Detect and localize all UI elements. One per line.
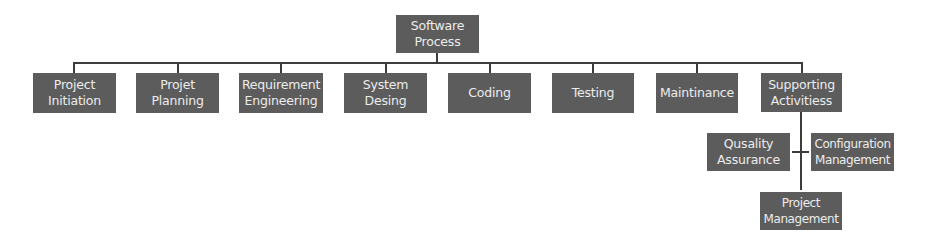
node-label: Requirement Engineering (242, 77, 320, 109)
node-label: Maintinance (660, 85, 734, 101)
node-label: Qusality Assurance (717, 136, 780, 168)
node-maintinance: Maintinance (656, 73, 738, 113)
node-label: Coding (468, 85, 510, 101)
node-qusality-assurance: Qusality Assurance (707, 133, 790, 171)
node-project-management: Project Management (760, 192, 842, 230)
supporting-cross-connector (792, 151, 809, 153)
main-horizontal-connector (73, 62, 803, 64)
node-system-desing: System Desing (344, 73, 427, 113)
node-software-process: Software Process (396, 15, 479, 53)
node-testing: Testing (552, 73, 634, 113)
node-projet-planning: Projet Planning (136, 73, 219, 113)
node-label: Projet Planning (151, 77, 203, 109)
node-label: Configuration Management (814, 136, 890, 168)
connector-projet-planning (177, 62, 179, 73)
node-label: Project Initiation (48, 77, 101, 109)
node-label: System Desing (363, 77, 408, 109)
connector-project-initiation (73, 62, 75, 73)
node-coding: Coding (448, 73, 531, 113)
node-project-initiation: Project Initiation (33, 73, 116, 113)
connector-maintinance (696, 62, 698, 73)
node-label: Software Process (411, 18, 465, 50)
node-label: Supporting Activitiess (768, 77, 835, 109)
node-configuration-management: Configuration Management (811, 133, 894, 171)
node-supporting-activitiess: Supporting Activitiess (761, 73, 842, 112)
connector-coding (489, 62, 491, 73)
connector-system-desing (385, 62, 387, 73)
node-label: Project Management (763, 195, 838, 227)
connector-requirement-engineering (280, 62, 282, 73)
connector-testing (592, 62, 594, 73)
node-requirement-engineering: Requirement Engineering (239, 73, 323, 113)
node-label: Testing (572, 85, 615, 101)
connector-supporting-activitiess (801, 62, 803, 73)
